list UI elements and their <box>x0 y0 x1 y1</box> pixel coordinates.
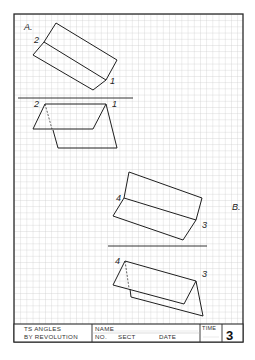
point-label-4: 4 <box>116 193 121 203</box>
title-line-2: BY REVOLUTION <box>24 333 78 340</box>
sect-label: SECT <box>118 333 136 340</box>
no-label: NO. <box>95 333 107 340</box>
problem-b-label: B. <box>232 202 241 212</box>
time-label: TIME <box>202 325 216 331</box>
problem-a-label: A. <box>23 22 33 32</box>
drawing-sheet: A. 2 1 2 1 4 3 B. 4 3 TS ANGLES BY REVO <box>0 0 255 360</box>
front-label-2: 2 <box>33 99 39 109</box>
front-label-4: 4 <box>115 256 120 266</box>
front-label-3: 3 <box>202 269 207 279</box>
date-label: DATE <box>159 333 176 340</box>
point-label-2: 2 <box>33 35 39 45</box>
point-label-3: 3 <box>202 220 207 230</box>
title-line-1: TS ANGLES <box>24 325 61 332</box>
point-label-1: 1 <box>110 76 115 86</box>
front-label-1: 1 <box>112 99 117 109</box>
name-label: NAME <box>95 325 114 332</box>
sheet-number: 3 <box>226 328 233 343</box>
grid-paper <box>14 14 243 324</box>
